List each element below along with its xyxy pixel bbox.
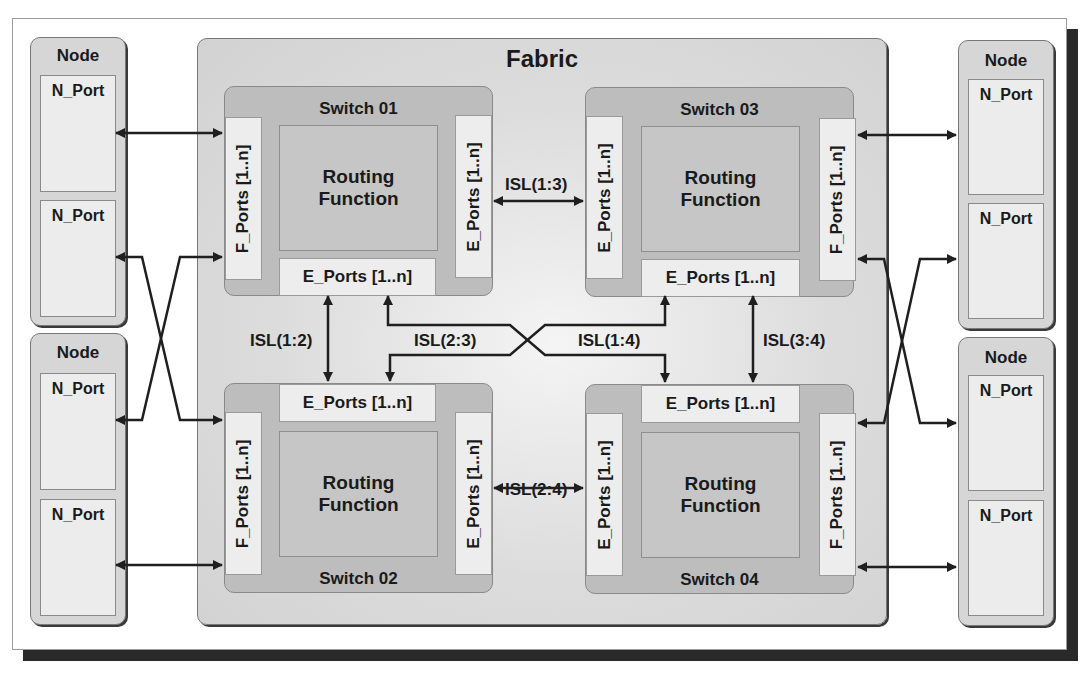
- e-ports-top: E_Ports [1..n]: [279, 384, 436, 422]
- node-title: Node: [31, 343, 125, 363]
- node-title: Node: [31, 46, 125, 66]
- n-port: N_Port: [40, 373, 116, 490]
- n-port: N_Port: [968, 203, 1044, 319]
- e-ports-top: E_Ports [1..n]: [641, 385, 800, 423]
- n-port: N_Port: [968, 79, 1044, 195]
- node-right-bottom: Node N_Port N_Port: [958, 337, 1054, 626]
- n-port: N_Port: [968, 375, 1044, 491]
- node-left-top: Node N_Port N_Port: [30, 37, 126, 326]
- n-port: N_Port: [40, 75, 116, 192]
- e-ports-bottom: E_Ports [1..n]: [641, 259, 800, 297]
- f-ports: F_Ports [1..n]: [225, 412, 262, 575]
- f-ports: F_Ports [1..n]: [819, 118, 856, 281]
- routing-function: RoutingFunction: [279, 125, 438, 251]
- switch-03: Switch 03 E_Ports [1..n] RoutingFunction…: [585, 87, 854, 297]
- fabric-title: Fabric: [198, 45, 886, 73]
- switch-title: Switch 02: [225, 569, 492, 589]
- e-ports-side: E_Ports [1..n]: [586, 413, 623, 576]
- e-ports-bottom: E_Ports [1..n]: [279, 258, 436, 296]
- node-left-bottom: Node N_Port N_Port: [30, 333, 126, 625]
- isl-label-2-4: ISL(2:4): [505, 480, 567, 500]
- n-port: N_Port: [40, 200, 116, 317]
- isl-label-1-3: ISL(1:3): [505, 175, 567, 195]
- isl-label-2-3: ISL(2:3): [414, 331, 476, 351]
- switch-04: E_Ports [1..n] E_Ports [1..n] RoutingFun…: [585, 384, 854, 594]
- routing-function: RoutingFunction: [641, 126, 800, 252]
- node-title: Node: [959, 348, 1053, 368]
- isl-label-1-2: ISL(1:2): [250, 331, 312, 351]
- e-ports-side: E_Ports [1..n]: [455, 412, 492, 575]
- f-ports: F_Ports [1..n]: [819, 413, 856, 576]
- switch-title: Switch 01: [225, 99, 492, 119]
- n-port: N_Port: [968, 500, 1044, 616]
- routing-function: RoutingFunction: [641, 432, 800, 558]
- node-title: Node: [959, 51, 1053, 71]
- node-right-top: Node N_Port N_Port: [958, 40, 1054, 329]
- routing-function: RoutingFunction: [279, 431, 438, 557]
- isl-label-1-4: ISL(1:4): [578, 331, 640, 351]
- e-ports-side: E_Ports [1..n]: [455, 115, 492, 278]
- n-port: N_Port: [40, 499, 116, 616]
- f-ports: F_Ports [1..n]: [225, 117, 262, 280]
- switch-title: Switch 04: [586, 570, 853, 590]
- isl-label-3-4: ISL(3:4): [763, 331, 825, 351]
- switch-title: Switch 03: [586, 100, 853, 120]
- switch-02: E_Ports [1..n] F_Ports [1..n] RoutingFun…: [224, 383, 493, 593]
- switch-01: Switch 01 F_Ports [1..n] RoutingFunction…: [224, 86, 493, 296]
- e-ports-side: E_Ports [1..n]: [586, 116, 623, 279]
